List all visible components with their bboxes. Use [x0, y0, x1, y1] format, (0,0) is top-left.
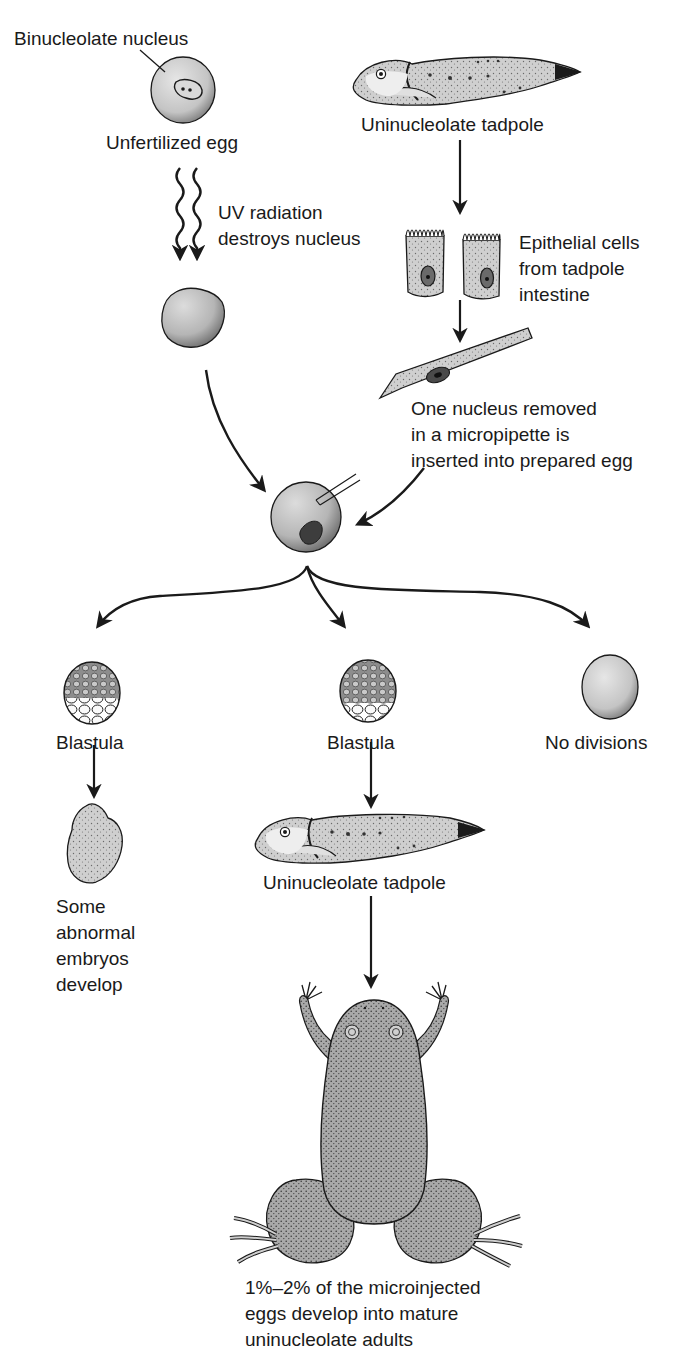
injected-egg-icon [271, 474, 360, 552]
unfertilized-egg-icon [140, 50, 215, 123]
blastula-middle-icon [336, 658, 400, 727]
label-unfertilized-egg: Unfertilized egg [106, 130, 238, 156]
label-blastula-middle: Blastula [327, 730, 395, 756]
label-blastula-left: Blastula [56, 730, 124, 756]
epithelial-cells-icon [406, 230, 500, 299]
adult-frog-icon [230, 982, 522, 1266]
nucleus-pointer-line [140, 50, 165, 72]
uv-radiation-arrows-icon [177, 168, 201, 258]
arrow-enucleated-to-injected [206, 370, 264, 490]
enucleated-egg-icon [162, 288, 225, 347]
label-uninucleolate-tadpole-bottom: Uninucleolate tadpole [263, 870, 446, 896]
label-abnormal-embryos: Some abnormal embryos develop [56, 894, 135, 998]
micropipette-icon [380, 328, 532, 398]
label-outcome-caption: 1%–2% of the microinjected eggs develop … [245, 1275, 481, 1353]
blastula-left-icon [60, 660, 124, 728]
label-nucleus-removed: One nucleus removed in a micropipette is… [411, 396, 633, 474]
label-no-divisions: No divisions [545, 730, 647, 756]
branch-arrows [98, 566, 588, 626]
label-binucleolate-nucleus: Binucleolate nucleus [14, 26, 188, 52]
undivided-egg-icon [582, 655, 638, 719]
label-uninucleolate-tadpole-top: Uninucleolate tadpole [361, 112, 544, 138]
label-epithelial-cells: Epithelial cells from tadpole intestine [519, 230, 639, 308]
arrow-pipette-to-injected [358, 468, 424, 524]
label-uv-radiation: UV radiation destroys nucleus [218, 200, 361, 252]
result-tadpole-icon [255, 814, 486, 863]
source-tadpole-icon [353, 57, 582, 105]
abnormal-embryo-icon [67, 804, 122, 883]
